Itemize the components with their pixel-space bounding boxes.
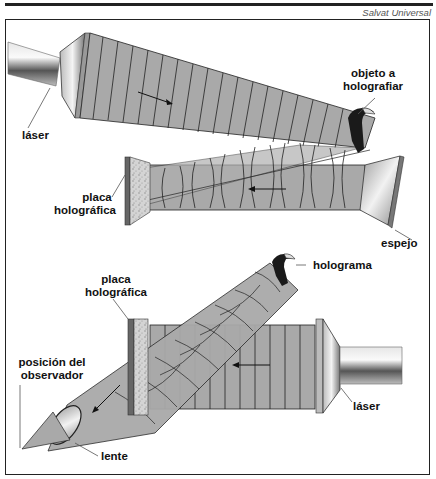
reference-beam <box>145 143 370 210</box>
label-observer-line1: posición del <box>18 356 85 368</box>
holographic-plate-top <box>125 157 150 225</box>
label-object-line1: objeto a <box>351 67 396 79</box>
holography-diagram: láser objeto a holografiar placa holográ… <box>0 0 436 479</box>
label-plate-bottom-line1: placa <box>101 273 131 285</box>
label-hologram: holograma <box>313 259 372 271</box>
holographic-plate-bottom <box>128 319 148 415</box>
label-laser-bottom: láser <box>353 400 380 412</box>
label-plate-bottom-line2: holográfica <box>85 286 148 298</box>
laser-source-bottom <box>316 319 402 413</box>
label-plate-top-line2: holográfica <box>54 204 117 216</box>
reconstruction-setup <box>20 254 402 456</box>
mirror <box>360 156 404 228</box>
label-plate-top-line1: placa <box>82 191 112 203</box>
label-lens: lente <box>101 450 128 462</box>
label-laser-top: láser <box>22 129 49 141</box>
laser-beam-top <box>80 33 375 148</box>
laser-source-top <box>8 33 90 118</box>
label-mirror: espejo <box>381 237 417 249</box>
label-observer-line2: observador <box>21 369 84 381</box>
label-object-line2: holografiar <box>343 80 404 92</box>
